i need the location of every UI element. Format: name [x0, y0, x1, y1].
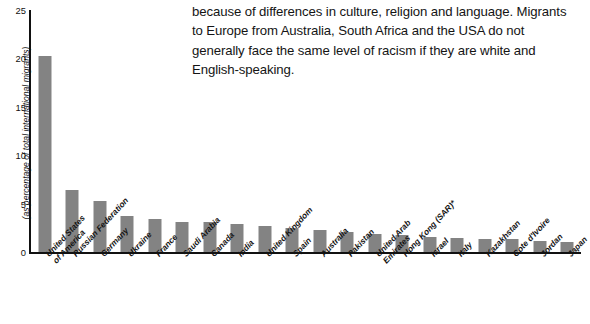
bar-slot: [389, 10, 417, 252]
y-axis-tick-0: 0: [2, 247, 26, 258]
bar: [38, 56, 51, 252]
y-axis-tick-10: 10: [2, 150, 26, 161]
bar-slot: [169, 10, 197, 252]
bar-slot: [141, 10, 169, 252]
y-axis-tick-25: 25: [2, 5, 26, 16]
bar-slot: [499, 10, 527, 252]
bar-slot: [224, 10, 252, 252]
y-axis-tick-15: 15: [2, 101, 26, 112]
bar-slot: [196, 10, 224, 252]
bar-slot: [526, 10, 554, 252]
bar-slot: [554, 10, 582, 252]
bar-slot: [251, 10, 279, 252]
y-axis-tick-5: 5: [2, 198, 26, 209]
bar-slot: [334, 10, 362, 252]
y-axis-tick-labels: 0510152025: [0, 0, 26, 324]
bar-slot: [471, 10, 499, 252]
bar-slot: [361, 10, 389, 252]
bar-slot: [31, 10, 59, 252]
y-axis-tick-20: 20: [2, 53, 26, 64]
x-axis-tick-labels: United Statesof AmericaRussian Federatio…: [31, 254, 581, 324]
